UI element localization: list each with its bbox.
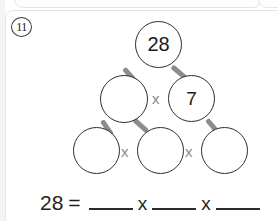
equation-operator-2: x	[201, 193, 211, 215]
factor-node-root[interactable]: 28	[135, 21, 182, 68]
equation-blank-1[interactable]	[89, 191, 133, 210]
equation-operator-1: x	[138, 193, 148, 215]
equation-blank-3[interactable]	[216, 191, 260, 210]
factor-node-bottom-left[interactable]	[73, 127, 120, 174]
factor-node-mid-right[interactable]: 7	[168, 75, 215, 122]
operator-mid-row: x	[152, 91, 160, 106]
equation-left-value: 28	[40, 191, 63, 215]
factor-node-bottom-middle[interactable]	[137, 127, 184, 174]
operator-bottom-row-1: x	[121, 144, 129, 159]
worksheet-problem: 11 28 x 7 x x 28 = x x	[0, 0, 278, 221]
factor-node-bottom-right[interactable]	[201, 127, 248, 174]
equation-line: 28 = x x	[40, 191, 262, 215]
problem-number-badge: 11	[11, 17, 32, 37]
equation-equals-sign: =	[68, 191, 80, 215]
factor-node-mid-left[interactable]	[100, 75, 148, 123]
equation-blank-2[interactable]	[152, 191, 196, 210]
operator-bottom-row-2: x	[185, 144, 193, 159]
